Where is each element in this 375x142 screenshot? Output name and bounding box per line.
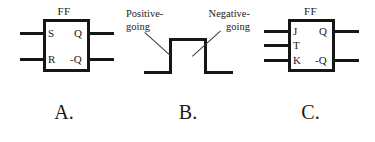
input-lead-t (264, 44, 289, 47)
pin-label-qbar: -Q (315, 55, 327, 66)
pin-label-t: T (293, 40, 300, 51)
waveform-rising-edge (169, 38, 172, 74)
input-lead-k (264, 59, 289, 62)
waveform-low-left-segment (144, 71, 172, 74)
pin-label-qbar: -Q (70, 54, 82, 65)
pin-label-k: K (293, 55, 301, 66)
sr-flip-flop-symbol: FF S R Q -Q (0, 0, 128, 95)
output-lead-qbar (333, 59, 359, 62)
panel-sr-flip-flop: FF S R Q -Q A. (0, 0, 128, 142)
panel-caption-b: B. (124, 100, 252, 124)
pin-label-s: S (48, 28, 54, 39)
output-lead-q (333, 30, 359, 33)
panel-caption-c: C. (246, 100, 375, 124)
pin-label-q: Q (319, 26, 327, 37)
pin-label-q: Q (74, 28, 82, 39)
annotation-positive-going: Positive- going (126, 8, 163, 33)
panel-caption-a: A. (0, 100, 128, 124)
annotation-negative-going-line1: Negative- (184, 8, 250, 21)
output-lead-q (88, 32, 114, 35)
leader-line-positive-going (144, 32, 170, 55)
panel-jk-flip-flop: FF J T K Q -Q C. (246, 0, 375, 142)
figure-canvas: FF S R Q -Q A. (0, 0, 375, 142)
waveform-low-right-segment (204, 71, 233, 74)
annotation-negative-going: Negative- going (184, 8, 250, 33)
pin-label-j: J (293, 26, 297, 37)
ff-block-title: FF (246, 5, 375, 17)
annotation-positive-going-line1: Positive- (126, 8, 163, 21)
jk-flip-flop-symbol: FF J T K Q -Q (246, 0, 375, 95)
output-lead-qbar (88, 58, 114, 61)
input-lead-s (20, 32, 45, 35)
annotation-negative-going-line2: going (184, 21, 250, 34)
input-lead-j (264, 30, 289, 33)
pulse-waveform-graphic: Positive- going Negative- going (124, 0, 252, 95)
waveform-high-segment (169, 38, 207, 41)
ff-block-title: FF (0, 5, 128, 17)
pin-label-r: R (48, 54, 55, 65)
panel-pulse-waveform: Positive- going Negative- going B. (124, 0, 252, 142)
input-lead-r (20, 58, 45, 61)
annotation-positive-going-line2: going (126, 21, 163, 34)
